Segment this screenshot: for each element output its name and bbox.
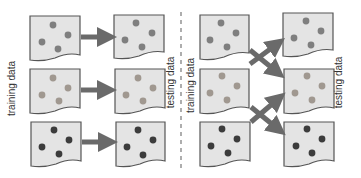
left-target-sheet-2: [115, 69, 165, 114]
left-source-sheet-2: [30, 69, 80, 114]
right-source-sheet-1: [200, 15, 249, 60]
right-training-data-label: training data: [185, 58, 196, 113]
left-source-sheet-3: [31, 122, 81, 167]
right-source-sheet-2: [200, 69, 249, 114]
diagram-canvas: [0, 0, 361, 178]
left-target-sheet-1: [114, 15, 164, 59]
right-target-sheet-2: [284, 69, 334, 114]
right-source-sheet-3: [200, 122, 250, 167]
right-testing-data-label: testing data: [333, 57, 344, 109]
right-target-sheet-1: [283, 13, 333, 57]
left-source-sheet-1: [30, 16, 80, 61]
right-target-sheet-3: [284, 122, 334, 167]
left-testing-data-label: testing data: [165, 57, 176, 109]
left-target-sheet-3: [116, 122, 165, 167]
left-training-data-label: training data: [6, 61, 17, 116]
